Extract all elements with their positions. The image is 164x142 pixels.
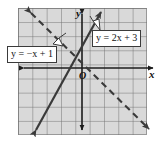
graph-figure: y x O y = −x + 1 y = 2x + 3 [0, 0, 164, 142]
equation-callout-2x-plus-3: y = 2x + 3 [92, 30, 141, 47]
x-axis-label: x [149, 69, 155, 80]
origin-label: O [79, 71, 86, 81]
equation-callout-negative-x-plus-1: y = −x + 1 [7, 46, 57, 63]
y-axis-label: y [76, 8, 81, 19]
